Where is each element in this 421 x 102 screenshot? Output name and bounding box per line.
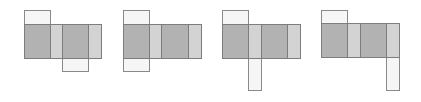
net-face-light <box>248 24 262 59</box>
net-face-dark <box>123 24 150 59</box>
net-flap-bottom <box>123 58 150 72</box>
net-flap-top <box>123 10 150 25</box>
net-face-dark <box>261 24 288 59</box>
net-face-dark <box>222 24 249 59</box>
net-face-light <box>88 24 102 59</box>
net-flap-top <box>222 10 249 25</box>
net-face-light <box>347 23 361 58</box>
net-flap-bottom <box>386 57 400 91</box>
net-flap-bottom <box>248 58 262 91</box>
net-face-light <box>188 24 202 59</box>
net-face-dark <box>62 24 89 59</box>
net-face-dark <box>360 23 387 58</box>
diagram-canvas <box>0 0 421 102</box>
net-flap-bottom <box>62 58 89 72</box>
net-flap-top <box>24 10 51 25</box>
net-face-light <box>287 24 301 59</box>
net-face-light <box>386 23 400 58</box>
net-flap-top <box>321 10 348 24</box>
net-face-dark <box>24 24 51 59</box>
net-face-dark <box>321 23 348 58</box>
net-face-dark <box>161 24 189 59</box>
